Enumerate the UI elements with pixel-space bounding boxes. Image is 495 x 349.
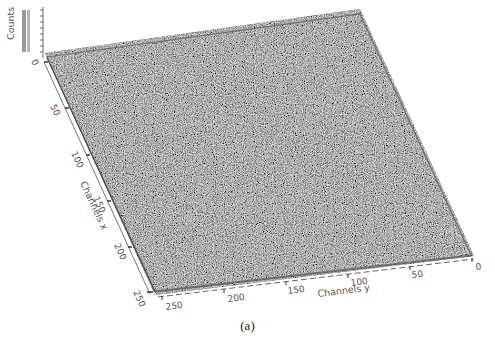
x-tick-250: 250 bbox=[131, 289, 147, 309]
y-tick-50: 50 bbox=[411, 269, 424, 280]
z-axis: Counts bbox=[5, 7, 43, 58]
x-tick-100: 100 bbox=[69, 150, 85, 170]
y-tick-250: 250 bbox=[165, 300, 184, 312]
y-axis-label: Channels y bbox=[317, 282, 371, 299]
surface-plot: Counts 0 50 100 150 200 250 Channels x bbox=[0, 0, 495, 349]
noise-surface bbox=[30, 0, 490, 300]
x-tick-0: 0 bbox=[29, 58, 41, 68]
z-axis-label: Counts bbox=[5, 7, 16, 40]
x-tick-200: 200 bbox=[112, 242, 128, 262]
y-tick-200: 200 bbox=[227, 292, 246, 304]
x-tick-50: 50 bbox=[48, 103, 62, 118]
z-tick-labels bbox=[22, 10, 30, 52]
y-tick-150: 150 bbox=[287, 284, 306, 296]
figure-caption: (a) bbox=[0, 318, 495, 334]
y-tick-0: 0 bbox=[475, 261, 482, 272]
